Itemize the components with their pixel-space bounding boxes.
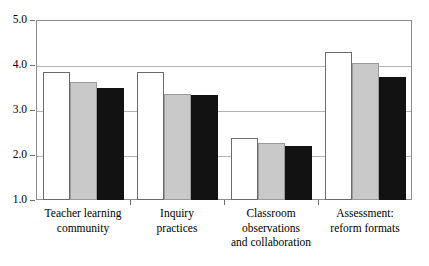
y-tick-label: 4.0 bbox=[13, 59, 27, 71]
bar bbox=[191, 95, 218, 200]
y-tick-label: 2.0 bbox=[13, 149, 27, 161]
bar bbox=[258, 143, 285, 200]
bar bbox=[379, 77, 406, 200]
x-category-label-line: Teacher learning bbox=[36, 206, 130, 221]
x-category-label: Inquirypractices bbox=[130, 206, 224, 235]
bar bbox=[137, 72, 164, 200]
x-category-label: Assessment:reform formats bbox=[318, 206, 412, 235]
y-tick-mark bbox=[30, 155, 35, 156]
x-category-label-line: and collaboration bbox=[224, 235, 318, 250]
x-category-label-line: practices bbox=[130, 221, 224, 236]
bar bbox=[231, 138, 258, 200]
x-tick-mark bbox=[130, 200, 131, 205]
x-category-label-line: observations bbox=[224, 221, 318, 236]
bar bbox=[325, 52, 352, 200]
y-tick-mark bbox=[30, 20, 35, 21]
x-category-label: Classroomobservationsand collaboration bbox=[224, 206, 318, 250]
x-tick-mark bbox=[318, 200, 319, 205]
y-tick-mark bbox=[30, 200, 35, 201]
x-category-label-line: reform formats bbox=[318, 221, 412, 236]
bar bbox=[164, 94, 191, 200]
bar bbox=[43, 72, 70, 200]
bar bbox=[285, 146, 312, 200]
x-category-label-line: community bbox=[36, 221, 130, 236]
x-category-label-line: Assessment: bbox=[318, 206, 412, 221]
bar bbox=[97, 88, 124, 200]
bars-layer bbox=[36, 20, 412, 200]
bar-chart: 1.02.03.04.05.0 Teacher learningcommunit… bbox=[0, 0, 429, 266]
x-axis-category-labels: Teacher learningcommunityInquirypractice… bbox=[36, 206, 412, 264]
x-category-label-line: Inquiry bbox=[130, 206, 224, 221]
y-tick-label: 5.0 bbox=[13, 14, 27, 26]
bar bbox=[352, 63, 379, 200]
y-tick-label: 1.0 bbox=[13, 194, 27, 206]
y-axis: 1.02.03.04.05.0 bbox=[0, 0, 36, 266]
y-tick-mark bbox=[30, 110, 35, 111]
x-tick-mark bbox=[224, 200, 225, 205]
x-category-label: Teacher learningcommunity bbox=[36, 206, 130, 235]
x-category-label-line: Classroom bbox=[224, 206, 318, 221]
y-tick-label: 3.0 bbox=[13, 104, 27, 116]
bar bbox=[70, 82, 97, 200]
y-tick-mark bbox=[30, 65, 35, 66]
